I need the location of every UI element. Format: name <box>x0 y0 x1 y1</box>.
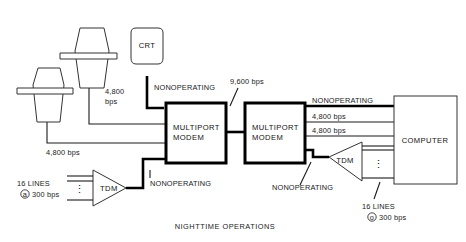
label-right-lines-count: 16 LINES <box>362 202 395 211</box>
wire-crt-to-modem-left <box>147 76 164 108</box>
computer-box: COMPUTER <box>394 96 457 184</box>
modem-left-label-line2: MODEM <box>173 133 204 142</box>
label-right-at-symbol: o <box>370 213 374 222</box>
modem-right-label-line1: MULTIPORT <box>252 123 299 132</box>
label-left-lines-rate: 300 bps <box>32 190 60 199</box>
figure-caption: NIGHTTIME OPERATIONS <box>175 222 276 231</box>
crt-display: CRT <box>131 28 163 64</box>
vertical-ellipsis-icon: ⋮ <box>74 183 85 195</box>
label-left-at-symbol: a <box>23 190 28 199</box>
leader-line-tdm-right-status <box>300 162 311 185</box>
network-diagram: CRT MULTIPORT MODEM MULTIPORT MODEM COMP… <box>0 0 466 242</box>
tdm-left: TDM ⋮ <box>67 170 126 206</box>
tdm-left-label: TDM <box>100 184 118 193</box>
label-terminal-upper-rate-line1: 4,800 <box>105 87 124 96</box>
crt-label: CRT <box>139 41 156 50</box>
wire-terminal-left-to-modem-left <box>47 122 166 143</box>
vertical-ellipsis-icon: ⋮ <box>373 158 384 170</box>
label-computer-link-status: NONOPERATING <box>312 96 373 105</box>
label-terminal-upper-rate-line2: bps <box>105 97 118 106</box>
label-right-lines-rate: 300 bps <box>379 213 407 222</box>
multiport-modem-left: MULTIPORT MODEM <box>166 103 226 163</box>
modem-left-label-line1: MULTIPORT <box>173 123 220 132</box>
tdm-right: TDM ⋮ <box>329 142 394 181</box>
label-tdm-left-status: NONOPERATING <box>150 179 211 188</box>
label-trunk-rate: 9,600 bps <box>230 77 264 86</box>
wire-modem-right-to-tdm-right <box>305 150 329 157</box>
modem-right-label-line2: MODEM <box>252 133 283 142</box>
tdm-right-label: TDM <box>336 156 354 165</box>
diagram-canvas: CRT MULTIPORT MODEM MULTIPORT MODEM COMP… <box>0 0 466 242</box>
label-crt-status: NONOPERATING <box>154 83 215 92</box>
label-left-lines-rate-group: a 300 bps <box>21 190 60 199</box>
label-computer-link-rate-2: 4,800 bps <box>312 126 346 135</box>
label-computer-link-rate-1: 4,800 bps <box>312 112 346 121</box>
label-terminal-left-rate: 4,800 bps <box>46 148 80 157</box>
leader-line-trunk-rate <box>230 88 238 106</box>
leader-line-right-lines <box>374 182 380 199</box>
computer-label: COMPUTER <box>402 136 449 145</box>
label-left-lines-count: 16 LINES <box>17 179 50 188</box>
wire-terminal-upper-to-modem-left <box>89 88 166 124</box>
teletype-terminal-upper <box>60 28 117 88</box>
label-right-lines-rate-group: o 300 bps <box>368 213 407 222</box>
multiport-modem-right: MULTIPORT MODEM <box>245 103 305 163</box>
teletype-terminal-left <box>17 68 73 122</box>
label-tdm-right-status: NONOPERATING <box>272 183 333 192</box>
